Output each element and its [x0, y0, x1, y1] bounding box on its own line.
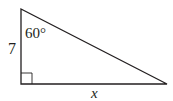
triangle [21, 9, 167, 84]
triangle-diagram: 7 60° x [0, 0, 173, 101]
angle-label: 60° [25, 25, 46, 41]
right-angle-marker [21, 73, 32, 84]
side-label-horizontal: x [90, 85, 98, 101]
side-label-vertical: 7 [8, 40, 16, 57]
